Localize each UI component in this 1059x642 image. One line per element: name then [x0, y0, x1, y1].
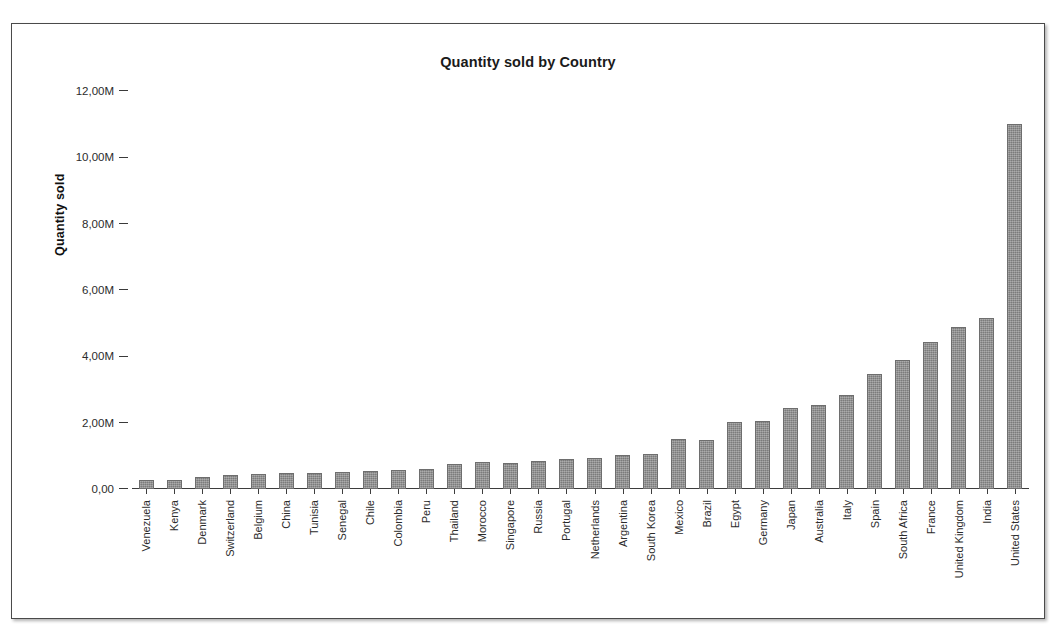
y-axis-tick-mark — [119, 356, 128, 357]
x-axis-tick-mark — [903, 489, 904, 494]
bar-slot: South Africa — [889, 91, 917, 489]
x-axis-tick-mark — [230, 489, 231, 494]
bar-slot: China — [272, 91, 300, 489]
bar-slot: Chile — [356, 91, 384, 489]
bar-slot: Tunisia — [300, 91, 328, 489]
bar[interactable] — [167, 480, 182, 489]
bar-slot: Singapore — [496, 91, 524, 489]
bar[interactable] — [951, 327, 966, 489]
bar[interactable] — [811, 405, 826, 489]
bar[interactable] — [223, 475, 238, 489]
bar[interactable] — [279, 473, 294, 489]
bar-slot: Italy — [833, 91, 861, 489]
x-axis-tick-mark — [763, 489, 764, 494]
bar-slot: Kenya — [160, 91, 188, 489]
bar-slot: Australia — [805, 91, 833, 489]
plot-area: 12,00M10,00M8,00M6,00M4,00M2,00M0,00 Ven… — [132, 91, 1029, 489]
x-axis-tick-mark — [426, 489, 427, 494]
bar[interactable] — [363, 471, 378, 489]
x-axis-tick-mark — [566, 489, 567, 494]
bar-slot: Peru — [412, 91, 440, 489]
bar[interactable] — [643, 454, 658, 489]
bar[interactable] — [419, 469, 434, 489]
x-axis-tick-mark — [202, 489, 203, 494]
bar[interactable] — [139, 480, 154, 489]
y-axis-tick-mark — [119, 488, 128, 489]
bar[interactable] — [699, 440, 714, 489]
x-axis-tick-mark — [987, 489, 988, 494]
bar-slot: Mexico — [665, 91, 693, 489]
bar[interactable] — [195, 477, 210, 489]
bar-slot: Russia — [524, 91, 552, 489]
x-axis-tick-mark — [595, 489, 596, 494]
x-axis-tick-mark — [538, 489, 539, 494]
bar[interactable] — [783, 408, 798, 489]
bar-slot: Egypt — [721, 91, 749, 489]
y-axis-tick-label: 6,00M — [82, 284, 132, 296]
x-axis-tick-mark — [735, 489, 736, 494]
y-axis-tick-mark — [119, 90, 128, 91]
x-axis-tick-mark — [931, 489, 932, 494]
bar[interactable] — [503, 463, 518, 489]
x-axis-tick-mark — [258, 489, 259, 494]
x-axis-tick-mark — [454, 489, 455, 494]
x-axis-tick-mark — [286, 489, 287, 494]
bar[interactable] — [979, 318, 994, 489]
bar-slot: Switzerland — [216, 91, 244, 489]
bar-slot: United States — [1001, 91, 1029, 489]
x-axis-tick-mark — [791, 489, 792, 494]
bar[interactable] — [895, 360, 910, 489]
x-axis-tick-mark — [847, 489, 848, 494]
bar[interactable] — [335, 472, 350, 489]
bar[interactable] — [839, 395, 854, 489]
chart-title: Quantity sold by Country — [12, 54, 1044, 70]
x-axis-tick-mark — [510, 489, 511, 494]
bar-slot: Colombia — [384, 91, 412, 489]
x-axis-tick-mark — [398, 489, 399, 494]
y-axis-tick-mark — [119, 422, 128, 423]
bar-slot: Japan — [777, 91, 805, 489]
bar-slot: France — [917, 91, 945, 489]
bar-slot: Portugal — [552, 91, 580, 489]
bar[interactable] — [391, 470, 406, 489]
x-axis-tick-mark — [651, 489, 652, 494]
bar[interactable] — [755, 421, 770, 489]
y-axis-tick-mark — [119, 289, 128, 290]
x-axis-tick-mark — [174, 489, 175, 494]
bar[interactable] — [475, 462, 490, 489]
bar[interactable] — [251, 474, 266, 489]
bar-slot: India — [973, 91, 1001, 489]
bar[interactable] — [867, 374, 882, 489]
bar-slot: South Korea — [637, 91, 665, 489]
x-axis-tick-mark — [1015, 489, 1016, 494]
bar[interactable] — [307, 473, 322, 489]
bar[interactable] — [559, 459, 574, 490]
y-axis-tick-label: 12,00M — [76, 85, 132, 97]
bar-slot: Morocco — [468, 91, 496, 489]
bar-slot: Argentina — [609, 91, 637, 489]
bar[interactable] — [531, 461, 546, 489]
bar-slot: Denmark — [188, 91, 216, 489]
y-axis-tick-label: 10,00M — [76, 151, 132, 163]
y-axis-title: Quantity sold — [53, 174, 67, 256]
bar[interactable] — [671, 439, 686, 489]
bar[interactable] — [727, 422, 742, 489]
x-axis-tick-mark — [342, 489, 343, 494]
bar-slot: Germany — [749, 91, 777, 489]
x-axis-tick-mark — [314, 489, 315, 494]
x-axis-tick-mark — [959, 489, 960, 494]
bar-slot: Netherlands — [581, 91, 609, 489]
bar[interactable] — [923, 342, 938, 489]
bar[interactable] — [447, 464, 462, 489]
x-axis-tick-mark — [875, 489, 876, 494]
x-axis-tick-mark — [819, 489, 820, 494]
bar[interactable] — [587, 458, 602, 490]
chart-frame: Quantity sold by Country Quantity sold 1… — [11, 23, 1045, 619]
bar-slot: United Kingdom — [945, 91, 973, 489]
x-axis-tick-mark — [482, 489, 483, 494]
x-axis-tick-mark — [146, 489, 147, 494]
bar-slot: Brazil — [693, 91, 721, 489]
bar[interactable] — [1007, 124, 1022, 489]
y-axis-tick-label: 2,00M — [82, 417, 132, 429]
bar[interactable] — [615, 455, 630, 489]
